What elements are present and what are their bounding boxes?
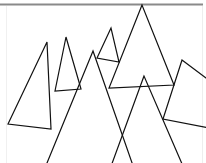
triangles-diagram bbox=[0, 0, 206, 163]
top-frame-bar bbox=[0, 4, 203, 6]
